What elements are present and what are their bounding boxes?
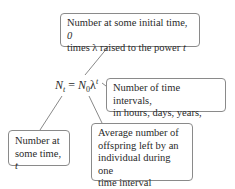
exponent: t [96, 77, 98, 86]
callout-text: time interval [98, 177, 186, 189]
callout-average-offspring: Average number of offspring left by an i… [91, 123, 193, 181]
callout-text: t [15, 160, 18, 171]
rhs-variable: N [78, 78, 86, 92]
callout-text: 0 [67, 30, 72, 41]
lhs-subscript: t [63, 85, 65, 94]
callout-text: times λ raised to the power [67, 42, 183, 53]
callout-text: Number at [15, 135, 63, 148]
callout-text: Average number of [98, 127, 186, 140]
callout-text: t [183, 42, 186, 53]
callout-text: Number of time intervals, [113, 82, 219, 107]
lhs-variable: N [55, 78, 63, 92]
callout-text: some time, [15, 148, 61, 159]
callout-initial-number: Number at some initial time, 0 times λ r… [60, 13, 200, 47]
equals-sign: = [68, 78, 75, 92]
callout-number-at-time-t: Number at some time, t [8, 130, 70, 166]
callout-time-intervals: Number of time intervals, in hours, days… [106, 78, 226, 112]
callout-text: Number at some initial time, [67, 17, 187, 28]
callout-text: offspring left by an [98, 140, 186, 153]
callout-text: individual during one [98, 152, 186, 177]
growth-equation: Nt = N0λt [55, 77, 98, 94]
